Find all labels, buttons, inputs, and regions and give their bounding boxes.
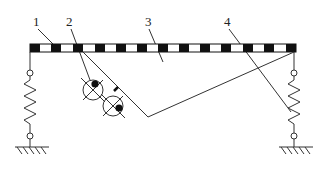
leader-line-2 [71,29,90,80]
leader-line-1 [38,29,53,44]
ground-hatch-icon [17,147,46,154]
exciter-lower [101,94,125,118]
label-4: 4 [224,14,231,29]
eccentric-mass-icon [91,80,98,87]
hinge-icon [27,133,33,139]
spring-right [288,80,300,124]
leader-line-4 [229,29,291,112]
ground-hatch-icon [281,147,310,154]
mount-bracket [114,87,118,91]
label-1: 1 [33,14,40,29]
label-2: 2 [66,14,73,29]
beam [30,44,296,52]
support-left [15,52,49,154]
labels: 1 2 3 4 [33,14,231,29]
spring-left [24,80,36,124]
hinge-icon [27,70,33,76]
hinge-icon [291,133,297,139]
hinge-icon [291,70,297,76]
eccentric-mass-icon [115,104,122,111]
label-3: 3 [145,14,152,29]
exciter-assembly [81,78,125,118]
exciter-upper [81,78,105,102]
vibration-diagram: 1 2 3 4 [0,0,324,173]
